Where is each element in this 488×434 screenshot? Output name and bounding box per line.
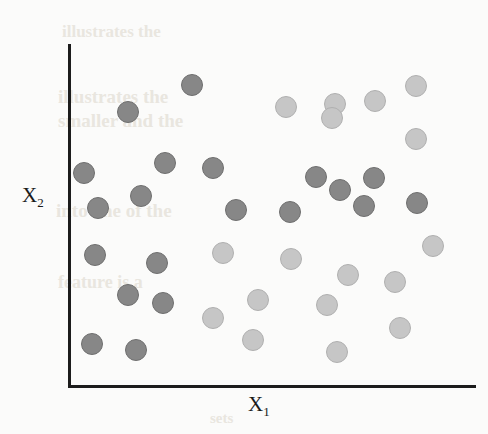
scatter-point-class-b	[280, 248, 302, 270]
scatter-point-class-b	[202, 307, 224, 329]
x-axis-label: X1	[248, 392, 270, 420]
scatter-point-class-b	[316, 294, 338, 316]
scatter-point-class-a	[202, 157, 224, 179]
scatter-point-class-a	[154, 152, 176, 174]
y-axis-line	[68, 44, 71, 388]
scatter-point-class-b	[275, 96, 297, 118]
x-axis-label-base: X	[248, 392, 263, 416]
scatter-point-class-a	[130, 185, 152, 207]
scatter-point-class-b	[337, 264, 359, 286]
scatter-point-class-a	[146, 252, 168, 274]
plot-area	[0, 0, 488, 434]
scatter-point-class-b	[364, 90, 386, 112]
x-axis-label-subscript: 1	[263, 404, 270, 419]
scatter-point-class-a	[84, 244, 106, 266]
scatter-point-class-b	[384, 271, 406, 293]
x-axis-line	[68, 385, 476, 388]
scatter-point-class-a	[406, 192, 428, 214]
scatter-point-class-a	[117, 101, 139, 123]
scatter-point-class-b	[212, 242, 234, 264]
scatter-point-class-b	[242, 329, 264, 351]
scatter-point-class-b	[405, 75, 427, 97]
scatter-point-class-b	[389, 317, 411, 339]
scatter-point-class-a	[225, 199, 247, 221]
scatter-point-class-b	[422, 235, 444, 257]
scatter-point-class-a	[279, 201, 301, 223]
scatter-point-class-b	[247, 289, 269, 311]
scatter-point-class-a	[152, 292, 174, 314]
scatter-point-class-a	[329, 179, 351, 201]
scatter-point-class-a	[353, 195, 375, 217]
scatter-point-class-b	[326, 341, 348, 363]
scatter-point-class-a	[363, 167, 385, 189]
scatter-point-class-a	[81, 333, 103, 355]
scatter-point-class-b	[321, 107, 343, 129]
scatter-point-class-b	[405, 128, 427, 150]
scatter-point-class-a	[305, 166, 327, 188]
y-axis-label-subscript: 2	[37, 195, 44, 210]
y-axis-label-base: X	[22, 183, 37, 207]
scatter-point-class-a	[181, 74, 203, 96]
y-axis-label: X2	[22, 183, 44, 211]
scatter-point-class-a	[73, 162, 95, 184]
scatter-plot-figure: illustrates theillustrates thesmaller an…	[0, 0, 488, 434]
scatter-point-class-a	[87, 197, 109, 219]
scatter-point-class-a	[125, 339, 147, 361]
scatter-point-class-a	[117, 284, 139, 306]
